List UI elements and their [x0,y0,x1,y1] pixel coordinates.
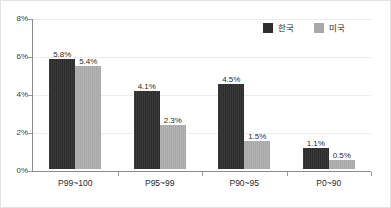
bar-value-label: 1.5% [240,133,274,141]
x-tick-mark [371,172,372,176]
y-tick-label: 4% [16,91,28,99]
y-tick-label: 6% [16,53,28,61]
legend-swatch-korea [263,23,273,33]
bar-korea [218,84,244,170]
gridline [33,19,371,20]
x-tick-mark [287,172,288,176]
category-label: P90~95 [202,179,287,188]
legend-item-usa: 미국 [314,23,345,33]
y-axis-line [32,19,33,172]
bar-value-label: 0.5% [325,152,359,160]
y-tick-label: 0% [16,167,28,175]
x-tick-mark [202,172,203,176]
bar-usa [160,125,186,169]
x-tick-mark [118,172,119,176]
category-label: P0~90 [287,179,372,188]
category-label: P95~99 [118,179,203,188]
legend-item-korea: 한국 [263,23,294,33]
bar-value-label: 1.1% [299,140,333,148]
bar-korea [134,91,160,169]
bar-chart: 한국 미국 0%2%4%6%8% 5.8%5.4%4.1%2.3%4.5%1.5… [0,0,391,208]
legend-swatch-usa [314,23,324,33]
bar-usa [75,66,101,169]
bar-korea [49,59,75,169]
legend-label-korea: 한국 [278,24,294,33]
bar-value-label: 2.3% [156,117,190,125]
bar-value-label: 4.1% [130,83,164,91]
y-tick-label: 8% [16,15,28,23]
category-label: P99~100 [33,179,118,188]
bar-value-label: 5.4% [71,58,105,66]
bar-value-label: 4.5% [214,76,248,84]
chart-legend: 한국 미국 [263,23,345,33]
legend-label-usa: 미국 [329,24,345,33]
bar-usa [329,160,355,170]
y-tick-label: 2% [16,129,28,137]
bar-usa [244,141,270,170]
